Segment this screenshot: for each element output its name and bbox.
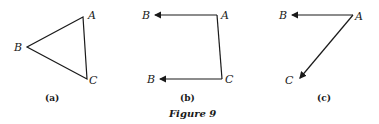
figure-9: A B C (a) B A B C (b) B A C (c) Figure 9 [0, 0, 379, 124]
panel-c: B A C (c) [278, 9, 363, 103]
label-b-bottom: B [146, 73, 155, 86]
label-b: B [278, 9, 287, 22]
figure-caption: Figure 9 [168, 108, 216, 119]
edge-a-c [217, 15, 222, 79]
label-b-top: B [141, 9, 150, 22]
panel-b: B A B C (b) [141, 9, 234, 103]
label-c: C [89, 74, 98, 87]
label-c: C [285, 74, 294, 87]
caption-b: (b) [180, 93, 195, 103]
label-a: A [87, 9, 96, 22]
arrow-a-to-c [300, 15, 353, 78]
caption-c: (c) [317, 93, 331, 103]
label-c: C [225, 73, 234, 86]
label-b: B [13, 41, 22, 54]
panel-a: A B C (a) [13, 9, 98, 103]
label-a: A [220, 9, 229, 22]
triangle-abc [27, 17, 87, 79]
label-a: A [354, 10, 363, 23]
caption-a: (a) [45, 93, 59, 103]
